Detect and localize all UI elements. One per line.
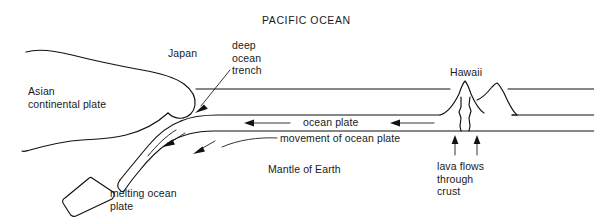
movement-of-ocean-plate-pointer bbox=[222, 138, 277, 147]
hawaii-volcano-left-peak bbox=[440, 81, 484, 115]
continental-margin-trench-wall bbox=[168, 113, 183, 118]
melting-ocean-plate-slab bbox=[63, 178, 114, 217]
deep-ocean-trench-label: deep ocean trench bbox=[232, 39, 262, 77]
slab-descent-arrow-lower-shaft bbox=[201, 141, 215, 149]
hawaii-label: Hawaii bbox=[450, 66, 482, 79]
movement-of-ocean-plate-label: movement of ocean plate bbox=[280, 132, 400, 145]
melting-ocean-plate-label: melting ocean plate bbox=[110, 187, 177, 212]
subducting-slab-upper-edge bbox=[120, 121, 181, 180]
ocean-plate-label: ocean plate bbox=[303, 116, 358, 129]
japan-label: Japan bbox=[168, 47, 197, 60]
ocean-plate-arrow-right-head bbox=[390, 119, 400, 126]
diagram-canvas bbox=[0, 0, 594, 223]
plate-tectonics-diagram: PACIFIC OCEAN Japan deep ocean trench As… bbox=[0, 0, 594, 223]
lava-arrow-right-head bbox=[474, 135, 481, 144]
asian-continental-plate-bottom-outline bbox=[22, 113, 168, 151]
asian-continental-plate-label: Asian continental plate bbox=[28, 85, 106, 110]
ocean-plate-arrow-left-head bbox=[244, 119, 254, 126]
lava-flows-through-crust-label: lava flows through crust bbox=[437, 160, 484, 198]
lava-conduit-left bbox=[459, 97, 461, 131]
lava-conduit-right bbox=[469, 97, 471, 131]
lava-arrow-left-head bbox=[452, 135, 459, 144]
mantle-of-earth-label: Mantle of Earth bbox=[268, 163, 341, 176]
deep-ocean-trench-pointer-shaft bbox=[201, 70, 230, 106]
pacific-ocean-title: PACIFIC OCEAN bbox=[262, 14, 351, 27]
hawaii-volcano-right-peak bbox=[477, 83, 517, 115]
slab-descent-arrow-upper-shaft bbox=[171, 133, 185, 142]
